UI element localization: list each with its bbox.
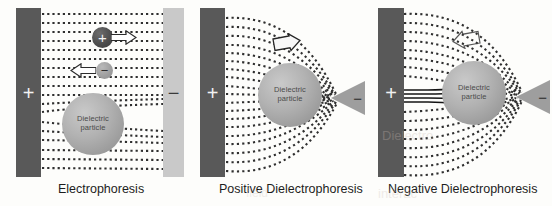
dielectric-particle-label-line2: particle [81, 124, 106, 133]
electrode-negative-tip[interactable]: − [331, 81, 365, 115]
minus-sign-icon: − [538, 90, 547, 105]
caption-positive-dielectrophoresis: Positive Dielectrophoresis [219, 182, 363, 196]
electrode-negative-plate[interactable]: − [163, 8, 184, 177]
minus-sign-icon: − [168, 83, 180, 103]
caption-electrophoresis: Electrophoresis [58, 182, 144, 196]
positive-charge-particle[interactable]: + [92, 27, 113, 48]
plus-sign-icon: + [207, 83, 219, 103]
plus-sign-icon: + [385, 83, 397, 103]
particle-motion-arrow-icon [272, 33, 302, 53]
electrode-positive-plate[interactable]: + [200, 8, 225, 177]
electrode-negative-tip[interactable]: − [516, 80, 550, 114]
particle-motion-arrow-icon [450, 27, 482, 49]
plus-sign-icon: + [23, 83, 35, 103]
dielectric-particle-label-line2: particle [462, 93, 487, 102]
minus-sign-icon: − [353, 91, 362, 106]
panel-positive-dielectrophoresis: + − Dielectric particle [186, 0, 366, 180]
electrode-positive-plate[interactable]: + [16, 8, 41, 177]
dielectric-particle[interactable]: Dielectric particle [442, 61, 506, 125]
caption-negative-dielectrophoresis: Negative Dielectrophoresis [388, 182, 537, 196]
positive-charge-motion-arrow-icon [111, 30, 137, 45]
dielectric-particle[interactable]: Dielectric particle [62, 93, 124, 155]
panel-electrophoresis: + − + − Dielectric particle [0, 0, 186, 180]
captions-row: Electrophoresis Positive Dielectrophores… [0, 180, 552, 206]
negative-charge-label: − [101, 64, 109, 77]
negative-charge-particle[interactable]: − [96, 62, 113, 79]
electrode-positive-plate[interactable]: + [378, 8, 404, 177]
figure-container: + − + − Dielectric particle [0, 0, 552, 206]
negative-charge-motion-arrow-icon [70, 63, 96, 78]
dielectric-particle-label-line2: particle [278, 95, 303, 104]
dielectric-particle[interactable]: Dielectric particle [258, 63, 322, 127]
panel-negative-dielectrophoresis: + − Dielectric particle [366, 0, 552, 180]
positive-charge-label: + [98, 30, 107, 45]
